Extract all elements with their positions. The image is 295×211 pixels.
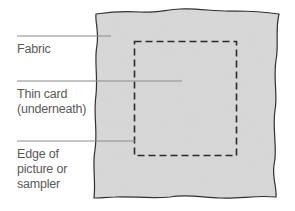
label-edge-of-picture: Edge of picture or sampler — [17, 147, 67, 192]
label-fabric: Fabric — [17, 42, 51, 57]
label-thin-card: Thin card (underneath) — [17, 87, 86, 117]
diagram: Fabric Thin card (underneath) Edge of pi… — [0, 0, 295, 211]
